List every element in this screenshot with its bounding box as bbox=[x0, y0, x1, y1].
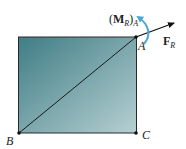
label-b: B bbox=[6, 135, 13, 147]
moment-symbol: M bbox=[113, 12, 124, 26]
diagram-canvas bbox=[0, 0, 186, 149]
moment-point-subscript: A bbox=[133, 19, 138, 28]
point-c bbox=[134, 131, 138, 135]
moment-label: (MR)A bbox=[109, 13, 138, 28]
point-b bbox=[17, 131, 21, 135]
label-a: A bbox=[138, 40, 145, 52]
label-c: C bbox=[142, 129, 150, 141]
force-label: FR bbox=[163, 35, 175, 50]
force-subscript: R bbox=[170, 41, 175, 50]
